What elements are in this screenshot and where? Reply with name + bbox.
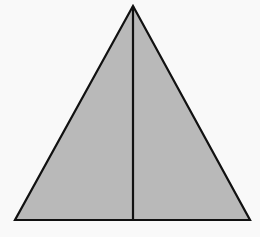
triangle-diagram: [0, 0, 260, 237]
